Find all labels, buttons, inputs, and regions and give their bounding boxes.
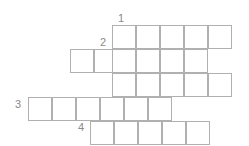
crossword-cell[interactable]: [186, 121, 210, 145]
crossword-cell[interactable]: [28, 97, 52, 121]
crossword-puzzle: 1234: [0, 0, 249, 146]
crossword-cell[interactable]: [136, 73, 160, 97]
crossword-cell[interactable]: [160, 49, 184, 73]
clue-number: 3: [15, 99, 21, 110]
crossword-cell[interactable]: [162, 121, 186, 145]
crossword-cell[interactable]: [138, 121, 162, 145]
crossword-cell[interactable]: [208, 25, 232, 49]
crossword-cell[interactable]: [52, 97, 76, 121]
crossword-cell[interactable]: [184, 73, 208, 97]
crossword-cell[interactable]: [160, 73, 184, 97]
crossword-cell[interactable]: [184, 49, 208, 73]
clue-number: 2: [100, 37, 106, 48]
crossword-cell[interactable]: [184, 25, 208, 49]
clue-number: 1: [118, 13, 124, 24]
crossword-cell[interactable]: [112, 73, 136, 97]
crossword-cell[interactable]: [208, 73, 232, 97]
crossword-cell[interactable]: [114, 121, 138, 145]
clue-number: 4: [78, 122, 84, 133]
crossword-cell[interactable]: [112, 49, 136, 73]
crossword-cell[interactable]: [148, 97, 172, 121]
crossword-cell[interactable]: [112, 25, 136, 49]
crossword-cell[interactable]: [70, 49, 94, 73]
crossword-cell[interactable]: [136, 25, 160, 49]
crossword-cell[interactable]: [136, 49, 160, 73]
crossword-cell[interactable]: [90, 121, 114, 145]
crossword-cell[interactable]: [160, 25, 184, 49]
crossword-cell[interactable]: [124, 97, 148, 121]
crossword-cell[interactable]: [100, 97, 124, 121]
crossword-cell[interactable]: [76, 97, 100, 121]
